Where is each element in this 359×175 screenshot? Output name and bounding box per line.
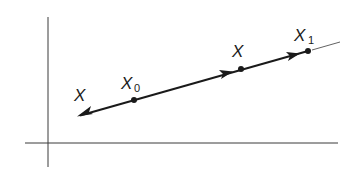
label-x0: X bbox=[120, 74, 133, 93]
label-left-x: X bbox=[73, 86, 86, 105]
label-mid-x: X bbox=[231, 42, 244, 61]
label-x1: X bbox=[293, 26, 306, 45]
point-x bbox=[238, 66, 244, 72]
label-x0-subscript: 0 bbox=[134, 82, 140, 94]
diagram-canvas: X X 0 X X 1 bbox=[0, 0, 359, 175]
point-x1 bbox=[305, 48, 311, 54]
arrowhead-left-icon bbox=[77, 106, 93, 117]
vector-line bbox=[80, 51, 308, 116]
point-x0 bbox=[131, 97, 137, 103]
line-extension bbox=[312, 42, 340, 50]
arrowhead-mid-icon bbox=[219, 70, 233, 79]
label-x1-subscript: 1 bbox=[308, 34, 314, 46]
